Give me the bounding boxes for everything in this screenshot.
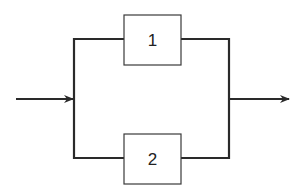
block-2: 2 [124, 134, 181, 184]
parallel-diagram: 1 2 [0, 0, 306, 187]
block-2-label: 2 [148, 150, 157, 169]
block-1-label: 1 [148, 31, 157, 50]
block-1: 1 [124, 15, 181, 65]
